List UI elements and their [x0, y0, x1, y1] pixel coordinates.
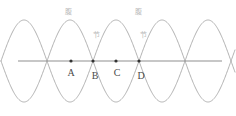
point-d-label: D: [137, 71, 144, 81]
point-a-dot: [69, 59, 72, 62]
node-label-1: 节: [93, 32, 100, 39]
point-c-label: C: [114, 68, 121, 78]
point-a-label: A: [67, 68, 74, 78]
point-d-dot: [137, 59, 140, 62]
point-b-dot: [91, 59, 94, 62]
antinode-label-1: 腹: [65, 9, 72, 16]
point-b-label: B: [92, 71, 99, 81]
point-c-dot: [114, 59, 117, 62]
wave-canvas: [0, 0, 236, 116]
standing-wave-diagram: 腹腹节节ABCD: [0, 0, 236, 116]
antinode-label-2: 腹: [135, 9, 142, 16]
node-label-2: 节: [140, 32, 147, 39]
